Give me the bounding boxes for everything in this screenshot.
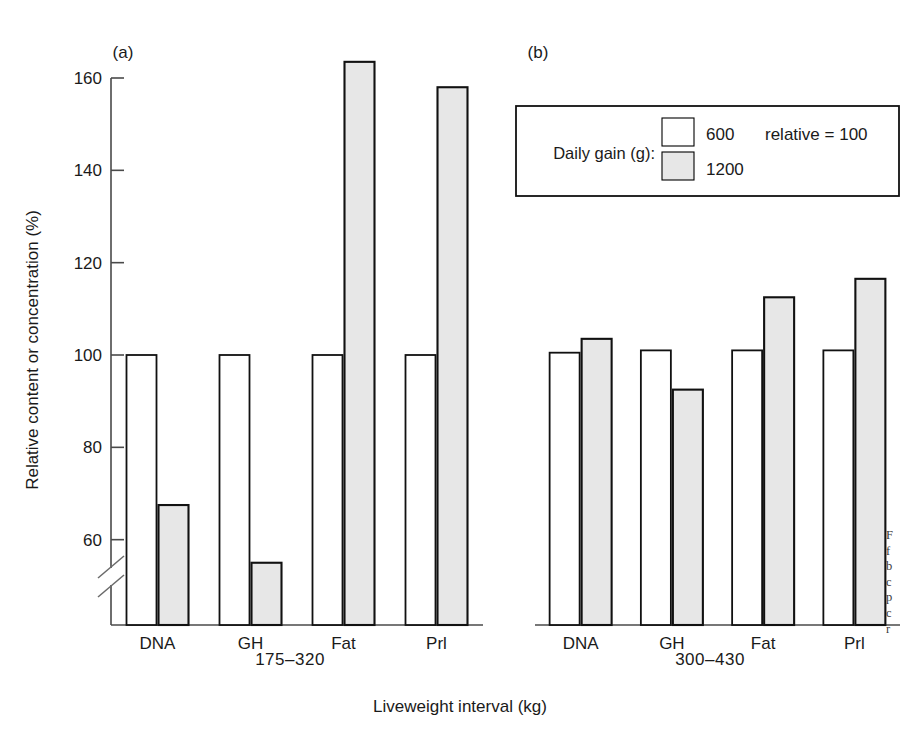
- category-label-dna: DNA: [563, 634, 600, 653]
- category-label-prl: Prl: [426, 634, 447, 653]
- y-tick-label: 60: [83, 531, 102, 550]
- legend-label-1200: 1200: [706, 160, 744, 179]
- panel-b: DNAGHFatPrl: [535, 279, 900, 653]
- caption-line: f: [886, 544, 919, 560]
- legend-swatch-1200: [662, 152, 694, 180]
- category-label-fat: Fat: [331, 634, 356, 653]
- bar-dna-1200: [582, 339, 612, 625]
- y-tick-label: 80: [83, 438, 102, 457]
- panel-label-a: (a): [113, 43, 134, 62]
- bar-fat-1200: [764, 297, 794, 625]
- interval-label-b: 300–430: [675, 650, 745, 669]
- legend: Daily gain (g): 600 relative = 100 1200: [516, 106, 899, 196]
- bar-gh-1200: [252, 563, 282, 625]
- bar-prl-1200: [855, 279, 885, 625]
- caption-line: F: [886, 528, 919, 544]
- panel-label-b: (b): [528, 43, 549, 62]
- bar-gh-600: [220, 355, 250, 625]
- bar-dna-1200: [159, 505, 189, 625]
- bar-gh-1200: [673, 390, 703, 625]
- interval-label-a: 175–320: [255, 650, 325, 669]
- caption-line: c: [886, 606, 919, 622]
- y-tick-label: 160: [74, 69, 102, 88]
- y-tick-label: 140: [74, 161, 102, 180]
- legend-note-relative: relative = 100: [765, 125, 868, 144]
- caption-line: p: [886, 590, 919, 606]
- bar-gh-600: [641, 350, 671, 625]
- caption-line: b: [886, 559, 919, 575]
- bar-prl-600: [823, 350, 853, 625]
- x-axis-title: Liveweight interval (kg): [373, 697, 547, 716]
- legend-label-600: 600: [706, 125, 734, 144]
- legend-title: Daily gain (g):: [553, 144, 655, 162]
- legend-swatch-600: [662, 118, 694, 146]
- bar-prl-600: [406, 355, 436, 625]
- y-tick-label: 120: [74, 254, 102, 273]
- bar-prl-1200: [438, 87, 468, 625]
- caption-fragment: F f b c p c r: [886, 528, 919, 637]
- panel-a: DNAGHFatPrl: [111, 62, 483, 653]
- category-label-fat: Fat: [751, 634, 776, 653]
- caption-line: c: [886, 575, 919, 591]
- category-label-dna: DNA: [140, 634, 177, 653]
- figure-root: 1601401201008060DNAGHFatPrlDNAGHFatPrl R…: [0, 0, 919, 733]
- bar-fat-1200: [345, 62, 375, 625]
- caption-line: r: [886, 622, 919, 638]
- y-axis: 1601401201008060: [74, 69, 124, 625]
- category-label-prl: Prl: [844, 634, 865, 653]
- y-tick-label: 100: [74, 346, 102, 365]
- bar-fat-600: [313, 355, 343, 625]
- bar-dna-600: [550, 353, 580, 625]
- bar-fat-600: [732, 350, 762, 625]
- bar-chart: 1601401201008060DNAGHFatPrlDNAGHFatPrl R…: [0, 0, 919, 733]
- y-axis-title: Relative content or concentration (%): [23, 210, 42, 490]
- bar-dna-600: [127, 355, 157, 625]
